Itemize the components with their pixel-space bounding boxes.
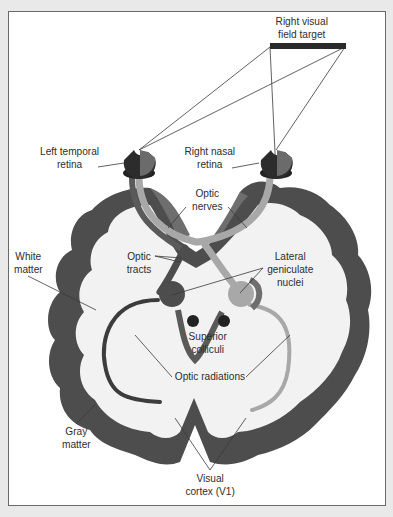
visual-field-target-bar	[270, 43, 346, 49]
label-target-line1: Right visual	[276, 15, 328, 28]
label-gray-matter-line1: Gray	[62, 425, 91, 438]
left-superior-colliculus	[187, 315, 199, 327]
left-lgn	[159, 281, 185, 307]
label-optic-nerves-line2: nerves	[192, 200, 222, 213]
label-visual-cortex-line1: Visual	[185, 472, 235, 485]
label-right-retina-line1: Right nasal	[184, 145, 235, 158]
label-white-matter-line2: matter	[14, 263, 43, 276]
label-white-matter: White matter	[14, 250, 43, 276]
label-right-nasal-retina: Right nasal retina	[184, 145, 235, 171]
label-right-retina-line2: retina	[184, 158, 235, 171]
label-optic-tracts: Optic tracts	[127, 250, 152, 276]
label-visual-cortex-line2: cortex (V1)	[185, 485, 235, 498]
label-optic-nerves: Optic nerves	[192, 187, 222, 213]
label-white-matter-line1: White	[14, 250, 43, 263]
label-optic-tracts-line1: Optic	[127, 250, 152, 263]
label-sc-line2: colliculi	[189, 343, 227, 356]
label-superior-colliculi: Superior colliculi	[189, 330, 227, 356]
label-optic-tracts-line2: tracts	[127, 263, 152, 276]
label-optic-radiations-line1: Optic radiations	[175, 370, 245, 383]
right-eye	[260, 150, 293, 179]
visual-pathway-diagram	[0, 0, 393, 517]
label-target-line2: field target	[276, 28, 328, 41]
label-lateral-geniculate-nuclei: Lateral geniculate nuclei	[267, 250, 313, 289]
visual-ray-lines	[139, 47, 345, 173]
label-sc-line1: Superior	[189, 330, 227, 343]
right-lgn	[228, 281, 254, 307]
right-superior-colliculus	[218, 315, 230, 327]
label-optic-radiations: Optic radiations	[175, 370, 245, 383]
label-gray-matter: Gray matter	[62, 425, 91, 451]
label-left-temporal-retina: Left temporal retina	[40, 145, 99, 171]
left-eye	[123, 150, 156, 179]
label-gray-matter-line2: matter	[62, 438, 91, 451]
label-target: Right visual field target	[276, 15, 328, 41]
label-left-retina-line2: retina	[40, 158, 99, 171]
label-visual-cortex: Visual cortex (V1)	[185, 472, 235, 498]
label-lgn-line3: nuclei	[267, 276, 313, 289]
label-left-retina-line1: Left temporal	[40, 145, 99, 158]
label-optic-nerves-line1: Optic	[192, 187, 222, 200]
label-lgn-line1: Lateral	[267, 250, 313, 263]
label-lgn-line2: geniculate	[267, 263, 313, 276]
